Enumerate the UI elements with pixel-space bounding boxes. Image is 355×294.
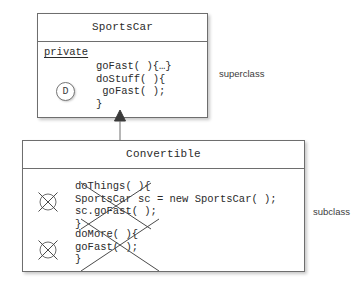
superclass-name: SportsCar xyxy=(38,14,207,42)
circled-x-icon xyxy=(37,191,59,213)
superclass-methods-code: goFast( ){…} doStuff( ){ goFast( ); } xyxy=(96,60,172,110)
subclass-body: doThings( ){ SportsCar sc = new SportsCa… xyxy=(23,169,304,271)
method-block-code: doThings( ){ SportsCar sc = new SportsCa… xyxy=(75,180,277,230)
subclass-class-box: Convertible doThings( ){ SportsCar sc = … xyxy=(22,140,305,272)
circled-x-icon xyxy=(37,239,59,261)
superclass-body: private D goFast( ){…} doStuff( ){ goFas… xyxy=(38,42,207,117)
superclass-annotation: superclass xyxy=(219,68,264,79)
subclass-annotation: subclass xyxy=(313,206,350,217)
default-access-badge-icon: D xyxy=(56,82,75,101)
uml-class-diagram: SportsCar private D goFast( ){…} doStuff… xyxy=(0,0,355,294)
superclass-class-box: SportsCar private D goFast( ){…} doStuff… xyxy=(37,13,208,118)
subclass-name: Convertible xyxy=(23,141,304,169)
method-block-code: doMore( ){ goFast( ); } xyxy=(75,228,138,266)
access-modifier-label: private xyxy=(44,46,88,59)
